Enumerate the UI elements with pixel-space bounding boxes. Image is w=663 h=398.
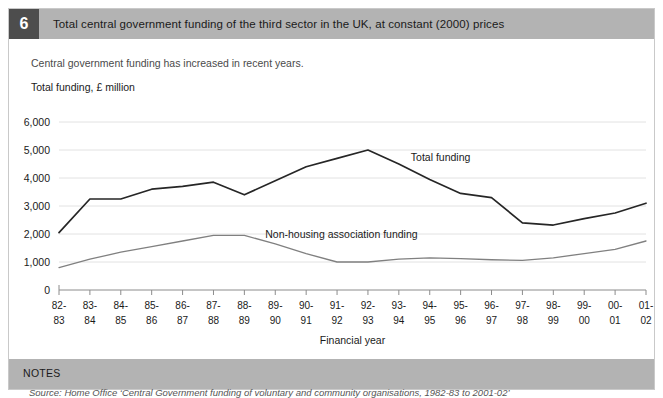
x-axis-tick-label-bottom: 86 — [146, 315, 158, 326]
x-axis-tick-label-bottom: 01 — [610, 315, 622, 326]
line-chart: 01,0002,0003,0004,0005,0006,00082-8383-8… — [9, 39, 654, 359]
x-axis-tick-label-bottom: 88 — [208, 315, 220, 326]
x-axis-tick-label-bottom: 83 — [53, 315, 65, 326]
y-axis-tick-label: 5,000 — [24, 144, 50, 156]
x-axis-tick-label-top: 82- — [52, 300, 66, 311]
x-axis-tick-label-bottom: 99 — [548, 315, 560, 326]
x-axis-tick-label-bottom: 85 — [115, 315, 127, 326]
series-line-non-housing-association-funding — [59, 235, 646, 267]
x-axis-tick-label-top: 93- — [392, 300, 406, 311]
x-axis-tick-label-bottom: 96 — [455, 315, 467, 326]
chart-plot-area: 01,0002,0003,0004,0005,0006,00082-8383-8… — [9, 39, 654, 359]
figure-title: Total central government funding of the … — [39, 18, 504, 30]
x-axis-tick-label-top: 88- — [237, 300, 251, 311]
x-axis-tick-label-top: 89- — [268, 300, 282, 311]
x-axis-tick-label-bottom: 91 — [301, 315, 313, 326]
series-annotation-non-housing-association-funding: Non-housing association funding — [265, 228, 418, 240]
series-annotation-total-funding: Total funding — [411, 151, 471, 163]
x-axis-tick-label-bottom: 90 — [270, 315, 282, 326]
y-axis-tick-label: 4,000 — [24, 172, 50, 184]
x-axis-tick-label-top: 96- — [484, 300, 498, 311]
x-axis-tick-label-bottom: 94 — [393, 315, 405, 326]
x-axis-tick-label-bottom: 87 — [177, 315, 189, 326]
x-axis-tick-label-top: 01- — [639, 300, 653, 311]
x-axis-tick-label-top: 85- — [144, 300, 158, 311]
figure-body: Central government funding has increased… — [9, 39, 654, 359]
x-axis-tick-label-bottom: 02 — [640, 315, 652, 326]
x-axis-tick-label-top: 94- — [423, 300, 437, 311]
x-axis-tick-label-top: 99- — [577, 300, 591, 311]
x-axis-tick-label-top: 90- — [299, 300, 313, 311]
series-line-total-funding — [59, 150, 646, 233]
figure-page: 6 Total central government funding of th… — [0, 0, 663, 398]
y-axis-tick-label: 1,000 — [24, 256, 50, 268]
x-axis-tick-label-top: 87- — [206, 300, 220, 311]
y-axis-tick-label: 3,000 — [24, 200, 50, 212]
x-axis-tick-label-bottom: 00 — [579, 315, 591, 326]
notes-band: NOTES — [9, 359, 654, 389]
figure-number-badge: 6 — [9, 9, 39, 39]
x-axis-title: Financial year — [320, 334, 386, 346]
x-axis-tick-label-top: 91- — [330, 300, 344, 311]
x-axis-tick-label-bottom: 89 — [239, 315, 251, 326]
x-axis-tick-label-bottom: 97 — [486, 315, 498, 326]
x-axis-tick-label-top: 98- — [546, 300, 560, 311]
x-axis-tick-label-top: 84- — [114, 300, 128, 311]
figure-frame: 6 Total central government funding of th… — [8, 8, 655, 390]
notes-label: NOTES — [23, 367, 61, 379]
x-axis-tick-label-top: 95- — [453, 300, 467, 311]
y-axis-tick-label: 0 — [44, 284, 50, 296]
x-axis-tick-label-top: 86- — [175, 300, 189, 311]
x-axis-tick-label-top: 83- — [83, 300, 97, 311]
x-axis-tick-label-bottom: 98 — [517, 315, 529, 326]
y-axis-tick-label: 6,000 — [24, 116, 50, 128]
x-axis-tick-label-bottom: 92 — [331, 315, 343, 326]
x-axis-tick-label-top: 92- — [361, 300, 375, 311]
x-axis-tick-label-bottom: 95 — [424, 315, 436, 326]
x-axis-tick-label-top: 00- — [608, 300, 622, 311]
figure-header: 6 Total central government funding of th… — [9, 9, 654, 39]
x-axis-tick-label-bottom: 93 — [362, 315, 374, 326]
x-axis-tick-label-bottom: 84 — [84, 315, 96, 326]
x-axis-tick-label-top: 97- — [515, 300, 529, 311]
y-axis-tick-label: 2,000 — [24, 228, 50, 240]
